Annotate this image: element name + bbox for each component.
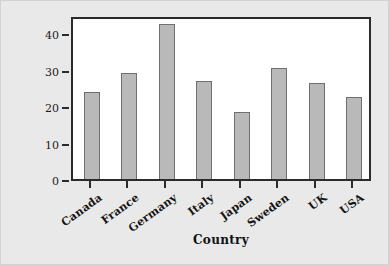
x-tick-mark (351, 181, 353, 188)
x-tick-label-italy: Italy (186, 191, 217, 219)
y-axis: 010203040 (1, 1, 71, 201)
plot-area (73, 19, 369, 179)
bar-usa (346, 97, 362, 179)
y-tick-label-30: 30 (45, 66, 59, 77)
x-tick-mark (126, 181, 128, 188)
y-tick-label-0: 0 (52, 176, 59, 187)
x-tick-mark (239, 181, 241, 188)
x-tick-label-uk: UK (306, 191, 329, 213)
x-tick-mark (164, 181, 166, 188)
x-tick-mark (89, 181, 91, 188)
bar-france (121, 73, 137, 179)
x-tick-mark (276, 181, 278, 188)
y-tick-label-40: 40 (45, 30, 59, 41)
x-tick-label-sweden: Sweden (245, 191, 292, 230)
figure: Taxes as percentage of gross wage earnin… (0, 0, 389, 265)
bar-japan (234, 112, 250, 179)
bar-uk (309, 83, 325, 179)
bar-italy (196, 81, 212, 179)
y-tick-mark (62, 34, 69, 36)
y-tick-mark (62, 71, 69, 73)
bar-germany (159, 24, 175, 179)
y-tick-mark (62, 144, 69, 146)
x-tick-mark (314, 181, 316, 188)
x-tick-mark (201, 181, 203, 188)
x-axis: CanadaFranceGermanyItalyJapanSwedenUKUSA (71, 181, 371, 236)
x-tick-label-usa: USA (338, 191, 367, 217)
y-tick-mark (62, 107, 69, 109)
y-tick-mark (62, 180, 69, 182)
bar-canada (84, 92, 100, 179)
bar-sweden (271, 68, 287, 179)
x-axis-title: Country (71, 233, 371, 247)
y-tick-label-20: 20 (45, 103, 59, 114)
plot-frame (71, 17, 371, 181)
y-tick-label-10: 10 (45, 139, 59, 150)
